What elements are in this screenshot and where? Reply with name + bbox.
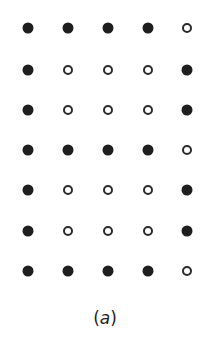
filled-dot-icon (143, 266, 154, 277)
open-dot-icon (63, 105, 73, 115)
filled-dot-icon (182, 185, 193, 196)
filled-dot-icon (23, 65, 34, 76)
filled-dot-icon (143, 145, 154, 156)
open-dot-icon (103, 185, 113, 195)
filled-dot-icon (103, 266, 114, 277)
open-dot-icon (182, 23, 192, 33)
open-dot-icon (182, 145, 192, 155)
figure-caption: (a) (0, 308, 210, 328)
open-dot-icon (143, 105, 153, 115)
filled-dot-icon (23, 105, 34, 116)
caption-open-paren: ( (93, 308, 100, 328)
open-dot-icon (143, 226, 153, 236)
filled-dot-icon (23, 266, 34, 277)
filled-dot-icon (63, 266, 74, 277)
open-dot-icon (143, 185, 153, 195)
filled-dot-icon (182, 226, 193, 237)
open-dot-icon (182, 266, 192, 276)
caption-letter: a (100, 308, 110, 328)
open-dot-icon (103, 65, 113, 75)
filled-dot-icon (23, 185, 34, 196)
filled-dot-icon (23, 145, 34, 156)
filled-dot-icon (63, 23, 74, 34)
filled-dot-icon (182, 65, 193, 76)
open-dot-icon (143, 65, 153, 75)
filled-dot-icon (23, 23, 34, 34)
filled-dot-icon (103, 145, 114, 156)
filled-dot-icon (182, 105, 193, 116)
filled-dot-icon (143, 23, 154, 34)
open-dot-icon (63, 226, 73, 236)
open-dot-icon (63, 185, 73, 195)
caption-close-paren: ) (110, 308, 117, 328)
dot-grid (0, 0, 210, 300)
filled-dot-icon (23, 226, 34, 237)
open-dot-icon (103, 226, 113, 236)
open-dot-icon (103, 105, 113, 115)
filled-dot-icon (103, 23, 114, 34)
open-dot-icon (63, 65, 73, 75)
filled-dot-icon (63, 145, 74, 156)
